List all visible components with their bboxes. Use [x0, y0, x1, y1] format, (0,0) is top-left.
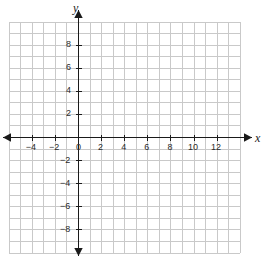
x-tick-label: 4: [121, 143, 126, 152]
x-tick-label: 8: [167, 143, 172, 152]
y-tick-label: 8: [66, 40, 71, 49]
x-tick-label: 2: [98, 143, 103, 152]
y-tick-label: −2: [60, 156, 70, 165]
x-tick-label: −4: [26, 143, 36, 152]
x-tick-label: 0: [76, 143, 81, 152]
y-tick-label: 6: [66, 63, 71, 72]
x-tick-label: −2: [49, 143, 59, 152]
axis-arrowheads: [3, 10, 252, 256]
x-axis-label: x: [255, 132, 260, 144]
y-tick-label: −4: [60, 179, 70, 188]
y-tick-label: 4: [66, 86, 71, 95]
x-tick-label: 6: [144, 143, 149, 152]
x-tick-label: 12: [211, 143, 221, 152]
y-tick-label: −8: [60, 225, 70, 234]
coordinate-plane: −4−2024681012 8642−2−4−6−8 x y: [0, 0, 264, 261]
y-tick-label: 2: [66, 109, 71, 118]
axis-lines: [3, 10, 252, 256]
y-axis-label: y: [73, 2, 78, 14]
grid-and-axes: [0, 0, 264, 261]
y-tick-label: −6: [60, 202, 70, 211]
x-tick-label: 10: [188, 143, 198, 152]
